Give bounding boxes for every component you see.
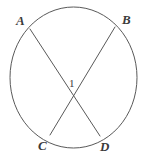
- chord-a-to-d: [30, 29, 100, 136]
- vertex-label-b: B: [122, 13, 131, 26]
- vertex-label-c: C: [38, 139, 47, 152]
- vertex-label-a: A: [16, 14, 25, 27]
- geometry-figure: A B C D 1: [0, 0, 147, 161]
- angle-label-1: 1: [69, 78, 75, 89]
- chord-b-to-c: [50, 27, 115, 135]
- vertex-label-d: D: [100, 140, 109, 153]
